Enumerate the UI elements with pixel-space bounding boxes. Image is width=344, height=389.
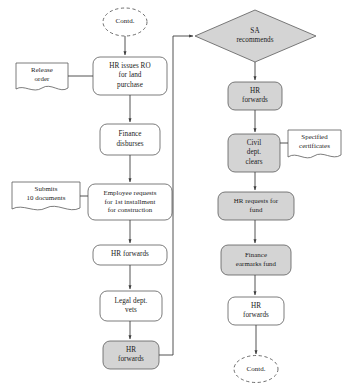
contd-bottom-terminator xyxy=(234,356,278,383)
hr-forwards-left-box xyxy=(93,245,167,265)
hr-forwards-bottom-box xyxy=(228,297,284,325)
hr-requests-fund-box xyxy=(218,192,294,220)
hr-issues-ro-box xyxy=(93,57,167,95)
finance-disburses-box xyxy=(100,124,160,155)
finance-earmarks-fund-box xyxy=(221,245,291,275)
flowchart-graphics xyxy=(0,0,344,389)
release-order-document xyxy=(16,63,68,90)
hr-forwards-right-box xyxy=(228,82,282,110)
sa-recommends-diamond xyxy=(195,10,316,62)
employee-requests-installment-box xyxy=(88,184,172,220)
specified-certificates-document xyxy=(288,130,341,158)
hr-forwards-shaded-box xyxy=(103,341,159,369)
civil-dept-clears-box xyxy=(228,134,280,172)
submits-10-documents-document xyxy=(12,182,80,210)
legal-dept-vets-box xyxy=(100,291,162,321)
contd-top-terminator xyxy=(103,8,147,36)
flowchart-canvas: Contd. Release order HR issues RO for la… xyxy=(0,0,344,389)
